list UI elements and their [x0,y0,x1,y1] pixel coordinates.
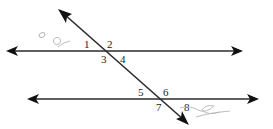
angle-label-3: 3 [101,53,107,65]
arrowhead-up-left-icon [58,9,72,23]
angle-label-7: 7 [156,101,162,113]
angle-label-4: 4 [120,53,126,65]
angle-labels: 1 2 3 4 5 6 7 8 [84,38,190,113]
angle-label-6: 6 [163,86,169,98]
transversal [58,9,189,125]
angle-label-1: 1 [84,38,90,50]
angle-label-5: 5 [138,86,144,98]
pencil-scribble-top-left [38,32,70,47]
arrowhead-down-right-icon [176,111,189,125]
transversal-segment [64,14,184,120]
angle-label-2: 2 [107,38,113,50]
diagram-canvas: 1 2 3 4 5 6 7 8 [0,0,273,129]
